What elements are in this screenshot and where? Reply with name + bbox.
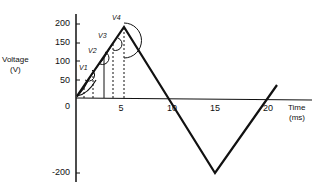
x-axis	[76, 98, 312, 100]
y-tick-minus-200: -200	[40, 168, 70, 177]
x-tick-20: 20	[258, 104, 278, 113]
waveform-chart	[0, 0, 325, 195]
y-tick-0: 0	[40, 102, 70, 111]
x-tick-10: 10	[162, 104, 182, 113]
label-v1: V1	[79, 64, 88, 71]
x-axis-label: Time	[288, 104, 305, 112]
y-tick-200: 200	[40, 19, 70, 28]
y-axis-label: Voltage	[2, 56, 29, 64]
x-axis-unit: (ms)	[289, 114, 305, 122]
x-tick-15: 15	[205, 104, 225, 113]
y-tick-50: 50	[40, 76, 70, 85]
y-axis-unit: (V)	[10, 66, 21, 74]
label-v4: V4	[112, 14, 121, 21]
y-tick-100: 100	[40, 57, 70, 66]
x-tick-5: 5	[111, 104, 131, 113]
label-v2: V2	[88, 47, 97, 54]
label-v3: V3	[98, 32, 107, 39]
y-tick-150: 150	[40, 38, 70, 47]
